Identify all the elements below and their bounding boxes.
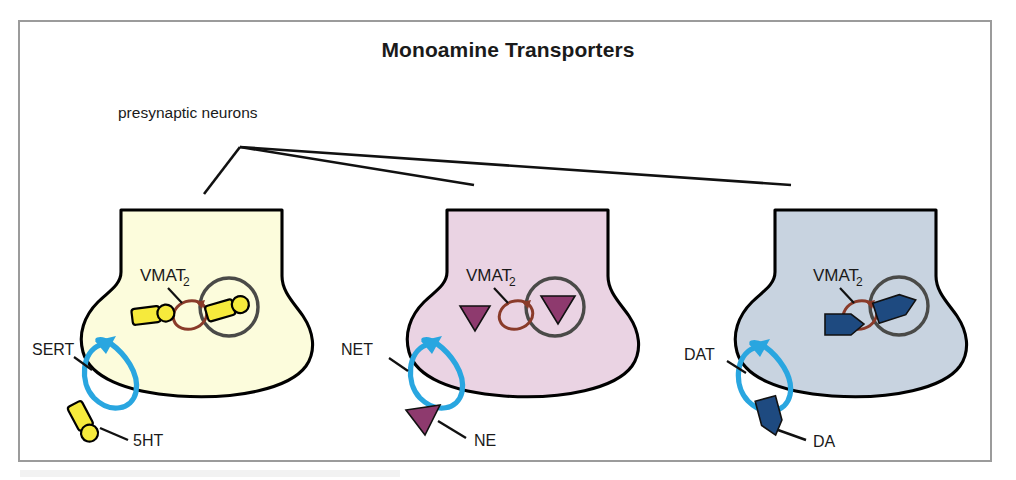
norepinephrine-terminal: VMAT 2 NET bbox=[341, 210, 639, 449]
vmat2-subscript: 2 bbox=[183, 275, 190, 289]
neurotransmitter-label-5ht: 5HT bbox=[100, 428, 163, 449]
vmat2-text: VMAT bbox=[466, 266, 512, 285]
presynaptic-leader-lines bbox=[204, 147, 791, 194]
diagram-canvas: VMAT 2 SERT bbox=[0, 0, 1016, 480]
figure-root: Monoamine Transporters presynaptic neuro… bbox=[0, 0, 1016, 480]
label-5ht-text: 5HT bbox=[133, 432, 163, 449]
terminal-membrane-serotonin bbox=[81, 210, 312, 397]
vmat2-text: VMAT bbox=[813, 266, 859, 285]
net-label: NET bbox=[341, 341, 408, 371]
vmat2-text: VMAT bbox=[140, 266, 186, 285]
net-text: NET bbox=[341, 341, 373, 358]
page-bottom-strip bbox=[20, 470, 400, 477]
dopamine-terminal: VMAT 2 DAT bbox=[684, 210, 967, 450]
label-ne-text: NE bbox=[474, 432, 496, 449]
label-da-text: DA bbox=[813, 433, 836, 450]
molecule-norepinephrine-extracellular bbox=[406, 405, 440, 435]
sert-text: SERT bbox=[32, 341, 75, 358]
neurotransmitter-label-da: DA bbox=[778, 430, 836, 450]
dat-text: DAT bbox=[684, 346, 715, 363]
neurotransmitter-label-ne: NE bbox=[438, 421, 496, 449]
vmat2-subscript: 2 bbox=[509, 275, 516, 289]
serotonin-terminal: VMAT 2 SERT bbox=[32, 210, 313, 449]
molecule-serotonin-extracellular bbox=[67, 400, 101, 445]
vmat2-subscript: 2 bbox=[856, 275, 863, 289]
terminal-membrane-norepinephrine bbox=[407, 210, 638, 397]
